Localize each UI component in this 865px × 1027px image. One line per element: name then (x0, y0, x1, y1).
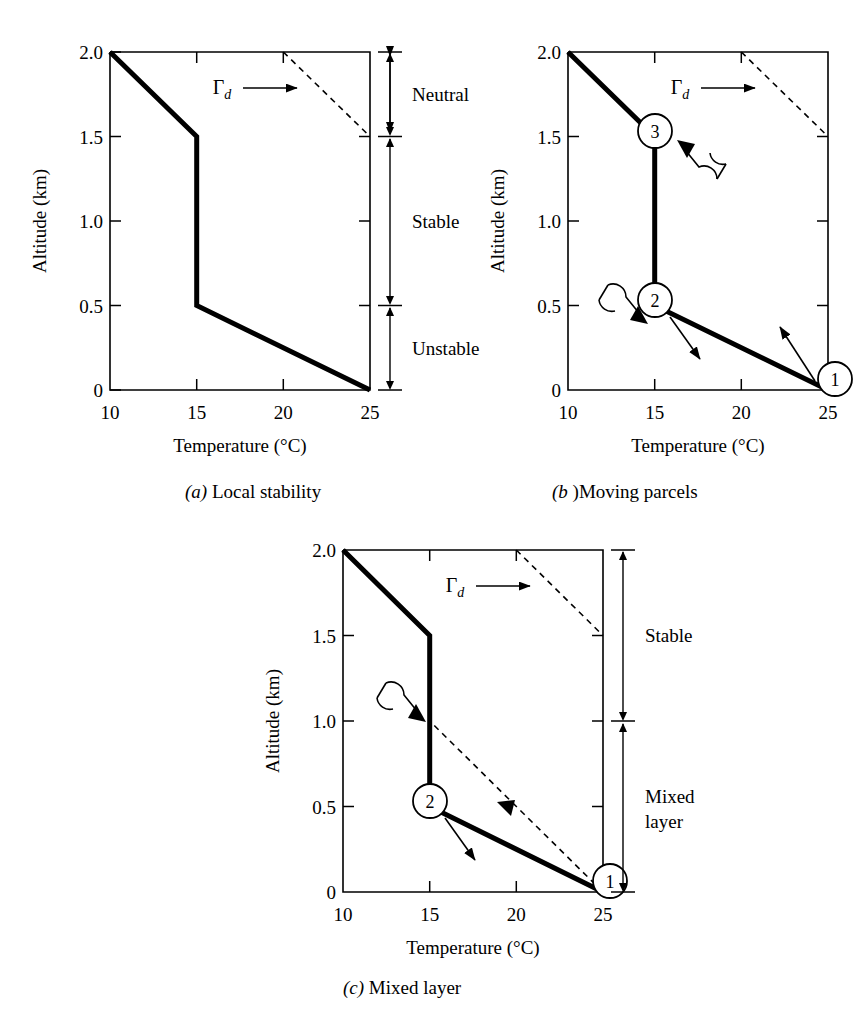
x-tick-label: 25 (361, 402, 380, 423)
x-tick-label: 25 (819, 402, 838, 423)
parcel-marker-2: 2 (413, 784, 447, 818)
y-tick-label: 0 (327, 882, 337, 903)
panel-c-caption-text: Mixed layer (364, 977, 461, 998)
y-tick-label: 2.0 (312, 540, 336, 561)
panel-a-svg: 2.0 1.5 1.0 0.5 0 10 15 20 25 Temperatur… (0, 0, 440, 470)
stability-brackets-c (611, 550, 635, 892)
y-axis-title: Altitude (km) (487, 169, 509, 273)
x-tick-label: 20 (274, 402, 293, 423)
temperature-profile-line (110, 52, 370, 390)
temperature-profile-line (568, 52, 828, 390)
x-tick-labels-b: 10 15 20 25 (559, 402, 838, 423)
y-tick-label: 1.5 (312, 626, 336, 647)
x-axis-title: Temperature (°C) (173, 435, 306, 457)
parcel-marker-2-label: 2 (651, 291, 660, 311)
x-tick-label: 15 (187, 402, 206, 423)
parcel-marker-3-label: 3 (651, 122, 660, 142)
y-tick-label: 1.0 (79, 211, 103, 232)
panel-a: 2.0 1.5 1.0 0.5 0 10 15 20 25 Temperatur… (0, 0, 440, 470)
parcel-marker-2-label: 2 (426, 792, 435, 812)
y-tick-labels-c: 2.0 1.5 1.0 0.5 0 (312, 540, 336, 903)
gamma-d-annotation: Γd (671, 76, 755, 102)
panel-c-svg: 2.0 1.5 1.0 0.5 0 10 15 20 25 Temperatur… (215, 498, 685, 998)
y-tick-label: 1.0 (537, 211, 561, 232)
y-tick-label: 0.5 (79, 296, 103, 317)
panel-c-caption-prefix: (c) (343, 977, 364, 998)
panel-c-caption: (c) Mixed layer (343, 977, 461, 999)
parcel-marker-3: 3 (638, 114, 672, 148)
plot-frame-b (568, 52, 828, 390)
y-axis-ticks-a (110, 52, 370, 390)
plot-frame-c (343, 550, 603, 892)
y-tick-label: 0 (94, 380, 104, 401)
dry-adiabat-dashed-line (516, 550, 603, 636)
x-tick-label: 15 (645, 402, 664, 423)
x-tick-label: 20 (732, 402, 751, 423)
y-tick-label: 2.0 (537, 42, 561, 63)
x-tick-label: 10 (101, 402, 120, 423)
y-tick-label: 0.5 (537, 296, 561, 317)
x-axis-title: Temperature (°C) (631, 435, 764, 457)
y-tick-label: 1.5 (537, 127, 561, 148)
y-tick-label: 1.5 (79, 127, 103, 148)
parcel-motion-arrows-c (377, 682, 475, 860)
loop-arrow-mixing (377, 682, 426, 722)
x-tick-label: 10 (559, 402, 578, 423)
y-tick-label: 0 (552, 380, 562, 401)
y-axis-ticks-b (568, 137, 828, 306)
x-tick-label: 10 (334, 904, 353, 925)
parcel-motion-arrows-b (599, 140, 815, 381)
dry-adiabat-dashed-line (283, 52, 370, 137)
panel-b-svg: 2.0 1.5 1.0 0.5 0 10 15 20 25 Temperatur… (425, 0, 865, 470)
plot-frame-a (110, 52, 370, 390)
y-tick-labels-a: 2.0 1.5 1.0 0.5 0 (79, 42, 103, 401)
y-tick-labels-b: 2.0 1.5 1.0 0.5 0 (537, 42, 561, 401)
parcel-marker-1: 1 (593, 864, 627, 898)
x-tick-label: 25 (594, 904, 613, 925)
parcel-marker-1-label: 1 (831, 370, 840, 390)
parcel-marker-2: 2 (638, 283, 672, 317)
x-tick-labels-c: 10 15 20 25 (334, 904, 613, 925)
x-tick-label: 15 (420, 904, 439, 925)
bracket-labels-c: Stable Mixed layer (645, 625, 695, 832)
arrow-mid-dashed (497, 800, 515, 816)
y-tick-label: 2.0 (79, 42, 103, 63)
y-axis-title: Altitude (km) (262, 669, 284, 773)
gamma-d-label: Γd (446, 574, 466, 600)
y-tick-label: 1.0 (312, 711, 336, 732)
bracket-label-mixed-line2: layer (645, 811, 684, 832)
x-tick-labels-a: 10 15 20 25 (101, 402, 380, 423)
stability-brackets-a (378, 52, 402, 390)
x-axis-title: Temperature (°C) (406, 937, 539, 959)
panel-b: 2.0 1.5 1.0 0.5 0 10 15 20 25 Temperatur… (425, 0, 865, 470)
y-axis-ticks-c (343, 636, 603, 807)
bracket-label-mixed-line1: Mixed (645, 786, 695, 807)
bracket-label-stable: Stable (645, 625, 693, 646)
panel-a-caption-prefix: (a) (185, 481, 207, 502)
temperature-profile-line (343, 550, 603, 892)
parcel-marker-1: 1 (818, 362, 852, 396)
dry-adiabat-dashed-line (741, 52, 828, 137)
panel-c: 2.0 1.5 1.0 0.5 0 10 15 20 25 Temperatur… (215, 498, 685, 998)
parcel-marker-1-label: 1 (606, 872, 615, 892)
gamma-d-annotation: Γd (213, 76, 297, 102)
gamma-d-label: Γd (671, 76, 691, 102)
mixing-adiabat-dashed-line (430, 721, 603, 892)
loop-arrow-near-parcel-3 (677, 140, 726, 179)
gamma-d-label: Γd (213, 76, 233, 102)
y-tick-label: 0.5 (312, 797, 336, 818)
gamma-d-annotation: Γd (446, 574, 530, 600)
y-axis-title: Altitude (km) (29, 169, 51, 273)
figure-root: 2.0 1.5 1.0 0.5 0 10 15 20 25 Temperatur… (0, 0, 865, 1027)
x-tick-label: 20 (507, 904, 526, 925)
